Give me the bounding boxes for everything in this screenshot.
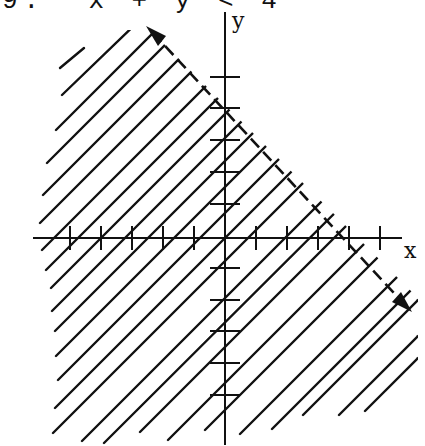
- arrow-head-bottom-right-icon: [392, 292, 412, 312]
- inequality-graph: 9. x + y < 4: [0, 0, 425, 446]
- boundary-line-dashed: [153, 33, 405, 305]
- y-axis-label: y: [232, 8, 244, 33]
- coordinate-plane: [0, 0, 425, 446]
- shaded-region-hatching: [40, 10, 418, 443]
- x-axis-label: x: [404, 238, 416, 263]
